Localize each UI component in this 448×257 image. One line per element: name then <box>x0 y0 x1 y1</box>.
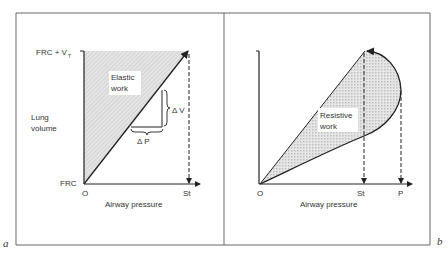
y-tick-frc: FRC <box>60 179 77 188</box>
delta-v-label: Δ V <box>172 106 185 115</box>
panel-b: Resistive work O St P Airway pressure b <box>256 51 443 247</box>
panel-label-b: b <box>437 235 443 247</box>
y-axis-label-2: volume <box>31 124 57 133</box>
delta-p-brace <box>131 129 163 135</box>
y-tick-frc-vt: FRC + V <box>36 48 68 57</box>
resistive-work-label: Resistive <box>320 111 353 120</box>
elastic-work-label: Elastic <box>111 73 135 82</box>
lung-work-diagram: Elastic work Δ V Δ P FRC + V T Lung volu… <box>0 0 448 257</box>
x-axis-label: Airway pressure <box>105 200 163 209</box>
x-tick-origin: O <box>257 189 263 198</box>
x-tick-st: St <box>183 189 191 198</box>
delta-p-label: Δ P <box>137 137 149 146</box>
y-axis-label: Lung <box>31 113 49 122</box>
x-tick-st: St <box>357 189 365 198</box>
panel-a: Elastic work Δ V Δ P FRC + V T Lung volu… <box>3 48 200 249</box>
x-tick-p: P <box>398 189 403 198</box>
x-axis-label: Airway pressure <box>300 200 358 209</box>
panel-label-a: a <box>3 237 9 249</box>
delta-v-brace <box>164 90 170 126</box>
y-tick-sub: T <box>68 53 71 59</box>
x-tick-origin: O <box>82 189 88 198</box>
elastic-work-label-2: work <box>110 84 129 93</box>
resistive-work-label-2: work <box>319 122 338 131</box>
